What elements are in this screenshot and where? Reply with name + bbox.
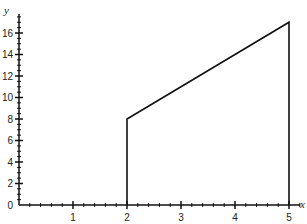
line-chart: 123450246810121416 x y bbox=[0, 0, 307, 223]
y-tick-label: 12 bbox=[2, 71, 14, 82]
y-tick-label: 8 bbox=[7, 114, 13, 125]
y-tick-label: 10 bbox=[2, 92, 14, 103]
x-axis-label: x bbox=[299, 198, 305, 210]
y-tick-label: 16 bbox=[2, 28, 14, 39]
x-tick-label: 2 bbox=[124, 212, 130, 223]
y-tick-label: 14 bbox=[2, 49, 14, 60]
data-line bbox=[127, 22, 289, 205]
tick-labels: 123450246810121416 bbox=[2, 28, 292, 224]
minor-ticks bbox=[17, 17, 300, 207]
y-axis-label: y bbox=[3, 4, 9, 16]
x-tick-label: 5 bbox=[286, 212, 292, 223]
x-tick-label: 4 bbox=[232, 212, 238, 223]
x-tick-label: 1 bbox=[70, 212, 76, 223]
y-tick-label: 0 bbox=[7, 200, 13, 211]
major-ticks bbox=[15, 33, 289, 209]
y-tick-label: 6 bbox=[7, 135, 13, 146]
y-tick-label: 4 bbox=[7, 157, 13, 168]
x-tick-label: 3 bbox=[178, 212, 184, 223]
y-tick-label: 2 bbox=[7, 178, 13, 189]
